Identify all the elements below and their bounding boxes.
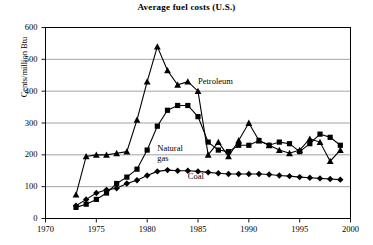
y-tick-label: 400 [12, 86, 38, 96]
x-tick-label: 1980 [130, 224, 164, 234]
x-tick-label: 1975 [79, 224, 113, 234]
y-tick-label: 200 [12, 149, 38, 159]
x-axis-ticks [46, 219, 351, 223]
series-label-natural-gas-line2: gas [157, 153, 168, 163]
y-tick-label: 300 [12, 118, 38, 128]
series-coal [73, 167, 344, 209]
y-tick-label: 500 [12, 54, 38, 64]
x-tick-label: 1985 [181, 224, 215, 234]
series-layer [73, 43, 344, 210]
chart-container: Average fuel costs (U.S.) Cents/million … [0, 0, 373, 245]
series-label-coal: Coal [188, 172, 204, 182]
series-label-petroleum: Petroleum [198, 77, 233, 87]
series-label-natural-gas: Natural gas [157, 144, 183, 163]
gridlines [46, 28, 351, 187]
y-tick-label: 100 [12, 181, 38, 191]
x-tick-label: 1995 [283, 224, 317, 234]
x-tick-label: 2000 [334, 224, 368, 234]
y-axis-ticks [42, 28, 46, 219]
x-tick-label: 1990 [232, 224, 266, 234]
y-tick-label: 0 [12, 213, 38, 223]
x-tick-label: 1970 [29, 224, 63, 234]
y-tick-label: 600 [12, 22, 38, 32]
plot-area [0, 0, 373, 245]
series-label-natural-gas-line1: Natural [157, 143, 183, 153]
